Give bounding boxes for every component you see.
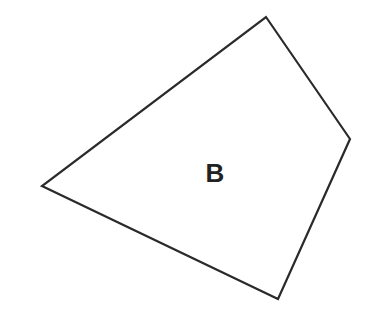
quadrilateral-figure: B bbox=[0, 0, 380, 326]
quadrilateral-shape bbox=[42, 17, 350, 299]
shape-label: B bbox=[206, 158, 225, 188]
diagram-canvas: B bbox=[0, 0, 380, 326]
